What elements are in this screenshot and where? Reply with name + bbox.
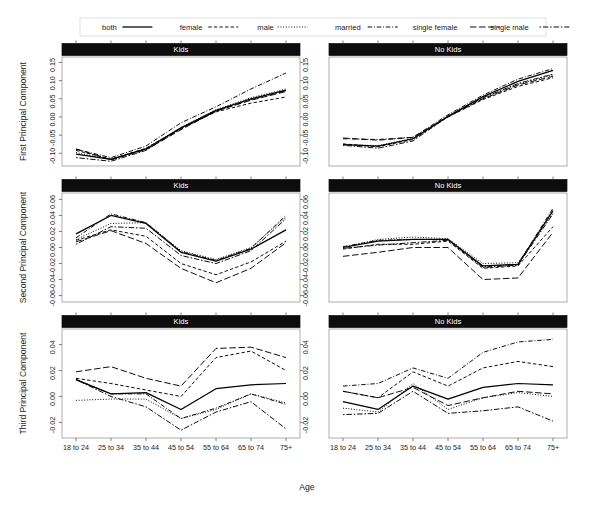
trellis-chart: bothfemalemalemarriedsingle femalesingle… (0, 0, 615, 507)
x-tick-label: 45 to 54 (168, 443, 194, 452)
x-tick-label: 75+ (280, 443, 292, 452)
panel-r2c1: Kids-0.06-0.06-0.04-0.04-0.02-0.020.000.… (49, 177, 311, 307)
x-tick-label: 55 to 64 (203, 443, 229, 452)
strip-label: No Kids (435, 45, 462, 54)
y-tick-label: 0.00 (49, 113, 58, 127)
y-tick-label-right: 0.00 (301, 392, 310, 406)
panel-frame (62, 193, 300, 302)
y-tick-label: -0.10 (49, 148, 58, 164)
y-tick-label: -0.02 (49, 417, 58, 433)
y-tick-label: -0.05 (49, 130, 58, 146)
x-tick-label: 55 to 64 (470, 443, 496, 452)
y-tick-label-right: 0.04 (301, 211, 310, 225)
x-tick-label: 18 to 24 (330, 443, 356, 452)
y-tick-label-right: 0.02 (301, 366, 310, 380)
strip-label: Kids (174, 317, 189, 326)
y-tick-label: 0.04 (49, 211, 58, 225)
panel-r1c2: No Kids (329, 41, 567, 167)
x-tick-label: 65 to 74 (505, 443, 531, 452)
chart-root: bothfemalemalemarriedsingle femalesingle… (0, 0, 615, 507)
y-tick-label-right: -0.10 (301, 148, 310, 164)
y-tick-label-right: 0.00 (301, 113, 310, 127)
legend-label-both: both (102, 23, 117, 32)
y-tick-label-right: 0.10 (301, 76, 310, 90)
x-tick-label: 25 to 34 (98, 443, 124, 452)
y-axis-title-row2: Second Principal Component (18, 191, 28, 303)
y-tick-label-right: 0.05 (301, 94, 310, 108)
y-tick-label-right: 0.02 (301, 227, 310, 241)
y-tick-label: 0.00 (49, 392, 58, 406)
x-tick-label: 65 to 74 (238, 443, 264, 452)
x-tick-label: 45 to 54 (435, 443, 461, 452)
y-tick-label: 0.02 (49, 366, 58, 380)
legend-label-married: married (335, 23, 361, 32)
y-tick-label: 0.05 (49, 94, 58, 108)
x-tick-label: 35 to 44 (133, 443, 159, 452)
y-tick-label: -0.02 (49, 258, 58, 274)
y-tick-label-right: -0.02 (301, 258, 310, 274)
strip-label: No Kids (435, 181, 462, 190)
legend-label-single-female: single female (413, 23, 458, 32)
x-axis-title: Age (299, 482, 315, 492)
y-tick-label-right: -0.06 (301, 290, 310, 306)
y-tick-label: -0.06 (49, 290, 58, 306)
y-tick-label-right: 0.06 (301, 195, 310, 209)
y-tick-label: 0.06 (49, 195, 58, 209)
y-tick-label: 0.04 (49, 340, 58, 354)
panel-frame (62, 329, 300, 438)
y-tick-label: 0.10 (49, 76, 58, 90)
y-tick-label-right: 0.15 (301, 58, 310, 72)
y-tick-label-right: 0.04 (301, 340, 310, 354)
legend-label-single-male: single male (490, 23, 528, 32)
panel-r2c2: No Kids (329, 177, 567, 303)
panel-r3c2: No Kids18 to 2425 to 3435 to 4445 to 545… (329, 313, 567, 453)
y-axis-title-row1: First Principal Component (18, 61, 28, 160)
x-tick-label: 25 to 34 (365, 443, 391, 452)
strip-label: No Kids (435, 317, 462, 326)
legend-label-female: female (180, 23, 203, 32)
panel-r1c1: Kids-0.10-0.10-0.05-0.050.000.000.050.05… (49, 41, 311, 167)
strip-label: Kids (174, 181, 189, 190)
x-tick-label: 18 to 24 (63, 443, 89, 452)
legend-label-male: male (257, 23, 273, 32)
y-tick-label: 0.15 (49, 58, 58, 72)
y-tick-label-right: -0.04 (301, 274, 310, 290)
y-tick-label-right: 0.00 (301, 243, 310, 257)
panel-frame (329, 57, 567, 166)
strip-label: Kids (174, 45, 189, 54)
y-tick-label: 0.02 (49, 227, 58, 241)
panel-r3c1: Kids-0.02-0.020.000.000.020.020.040.0418… (49, 313, 311, 453)
y-tick-label: 0.00 (49, 243, 58, 257)
y-tick-label-right: -0.02 (301, 417, 310, 433)
x-tick-label: 75+ (547, 443, 559, 452)
y-tick-label: -0.04 (49, 274, 58, 290)
y-tick-label-right: -0.05 (301, 130, 310, 146)
y-axis-title-row3: Third Principal Component (18, 332, 28, 434)
panel-frame (62, 57, 300, 166)
x-tick-label: 35 to 44 (400, 443, 426, 452)
